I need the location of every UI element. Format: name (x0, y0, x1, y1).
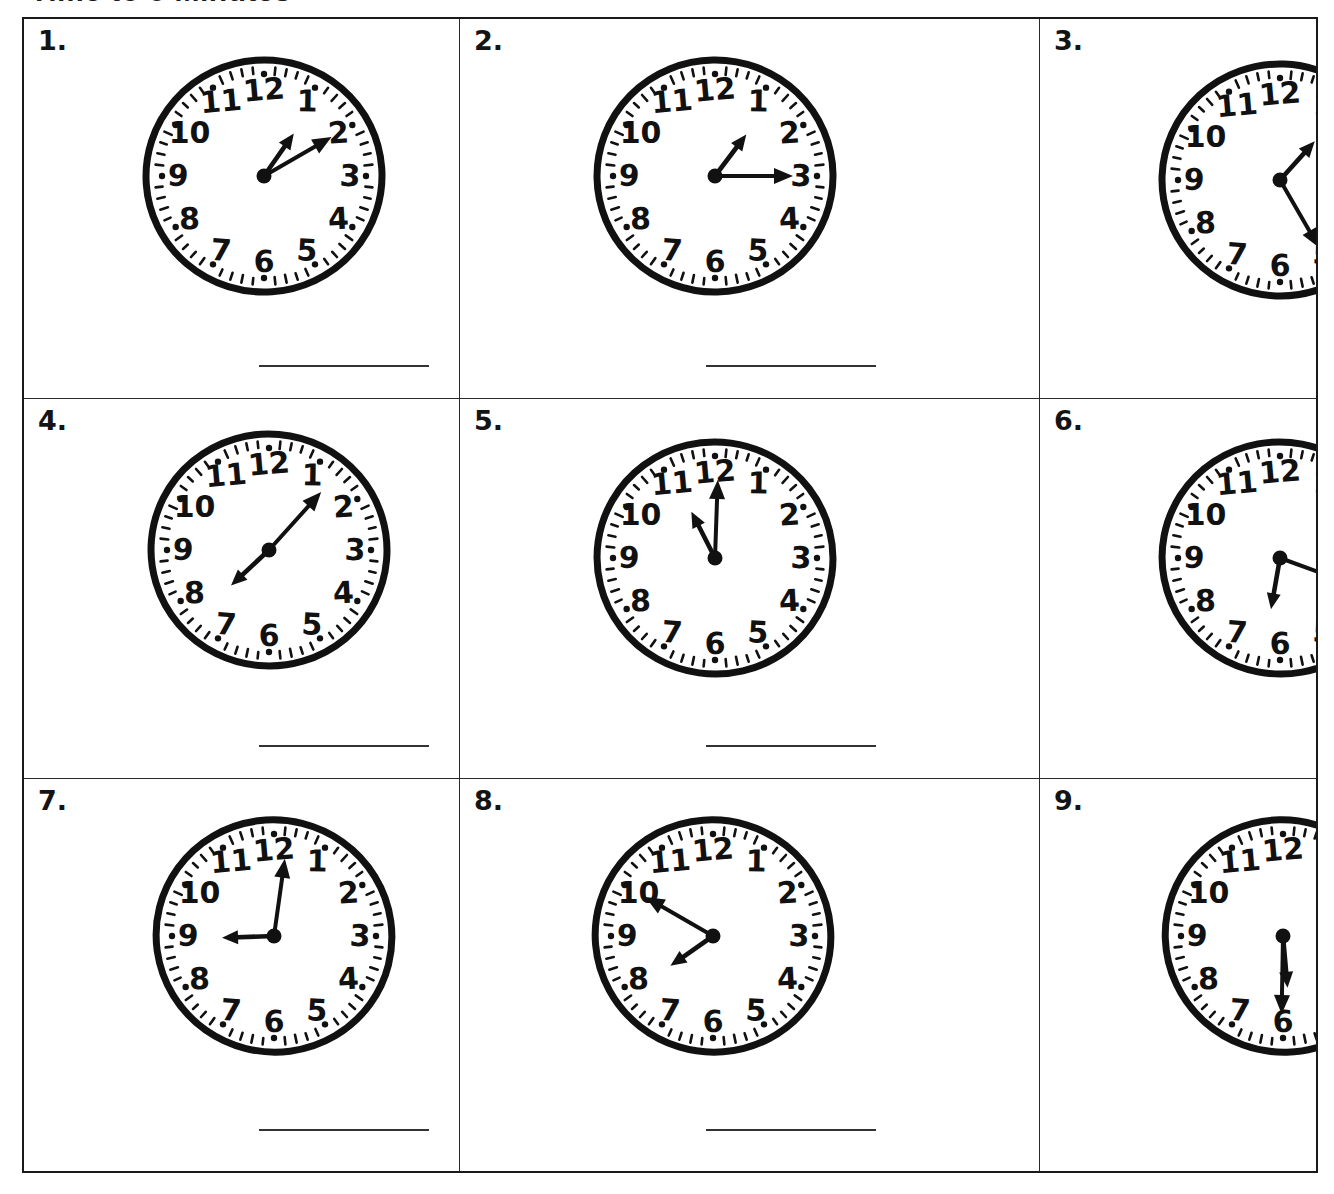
svg-text:11: 11 (204, 456, 249, 495)
svg-text:6: 6 (253, 244, 275, 280)
svg-text:5: 5 (745, 992, 768, 1028)
svg-text:7: 7 (214, 606, 237, 642)
clock-4: 121234567891011 (134, 415, 404, 685)
answer-line-4[interactable] (259, 745, 429, 747)
svg-text:6: 6 (704, 626, 726, 662)
svg-text:9: 9 (1182, 539, 1206, 576)
problem-cell-7: 7.121234567891011 (24, 779, 460, 1171)
svg-text:4: 4 (337, 960, 360, 996)
svg-text:12: 12 (1258, 74, 1303, 113)
svg-text:11: 11 (648, 842, 693, 881)
svg-text:9: 9 (176, 917, 200, 954)
svg-text:3: 3 (790, 158, 812, 194)
clock-6: 121234567891011 (1145, 423, 1316, 693)
svg-text:9: 9 (171, 531, 195, 568)
problem-number-3: 3. (1054, 25, 1083, 56)
svg-text:12: 12 (247, 444, 292, 483)
svg-text:6: 6 (1269, 626, 1291, 662)
svg-text:2: 2 (778, 496, 801, 532)
svg-text:11: 11 (1215, 464, 1260, 503)
svg-text:8: 8 (184, 575, 205, 610)
svg-text:10: 10 (1188, 875, 1230, 910)
svg-text:3: 3 (339, 158, 361, 194)
problem-grid: 1.1212345678910112.1212345678910113.1212… (22, 17, 1318, 1173)
clock-face: 121234567891011 (1145, 45, 1316, 315)
clock-9: 121234567891011 (1148, 801, 1316, 1071)
svg-text:3: 3 (788, 918, 810, 954)
svg-text:10: 10 (1185, 497, 1227, 532)
svg-text:2: 2 (337, 874, 360, 910)
svg-text:10: 10 (169, 115, 211, 150)
svg-text:1: 1 (306, 843, 327, 878)
problem-cell-3: 3.121234567891011 (1040, 19, 1316, 399)
svg-text:5: 5 (1312, 614, 1316, 650)
svg-text:11: 11 (199, 82, 244, 121)
svg-text:1: 1 (296, 83, 317, 118)
svg-text:9: 9 (615, 917, 639, 954)
svg-text:12: 12 (693, 452, 738, 491)
svg-text:12: 12 (252, 830, 297, 869)
clock-face: 121234567891011 (580, 41, 850, 311)
svg-text:6: 6 (263, 1004, 285, 1040)
svg-text:8: 8 (179, 201, 200, 236)
svg-text:7: 7 (658, 992, 681, 1028)
svg-text:10: 10 (179, 875, 221, 910)
svg-text:12: 12 (1261, 830, 1306, 869)
problem-cell-6: 6.121234567891011 (1040, 399, 1316, 779)
svg-text:11: 11 (650, 82, 695, 121)
svg-text:9: 9 (166, 157, 190, 194)
svg-text:1: 1 (747, 83, 768, 118)
svg-text:4: 4 (778, 582, 801, 618)
svg-text:6: 6 (258, 618, 280, 654)
problem-cell-4: 4.121234567891011 (24, 399, 460, 779)
svg-text:5: 5 (747, 614, 770, 650)
svg-text:9: 9 (1185, 917, 1209, 954)
svg-text:7: 7 (660, 614, 683, 650)
answer-line-2[interactable] (706, 365, 876, 367)
problem-number-8: 8. (474, 785, 503, 816)
svg-text:9: 9 (617, 157, 641, 194)
svg-text:11: 11 (1218, 842, 1263, 881)
svg-text:6: 6 (702, 1004, 724, 1040)
svg-text:10: 10 (620, 115, 662, 150)
svg-text:11: 11 (209, 842, 254, 881)
svg-text:8: 8 (1198, 961, 1219, 996)
clock-face: 121234567891011 (139, 801, 409, 1071)
svg-text:5: 5 (306, 992, 329, 1028)
svg-text:1: 1 (745, 843, 766, 878)
svg-text:9: 9 (1182, 161, 1206, 198)
svg-text:2: 2 (332, 488, 355, 524)
clock-7: 121234567891011 (139, 801, 409, 1071)
svg-text:12: 12 (691, 830, 736, 869)
svg-text:2: 2 (778, 114, 801, 150)
problem-cell-8: 8.121234567891011 (460, 779, 1040, 1171)
svg-text:1: 1 (301, 457, 322, 492)
svg-text:3: 3 (344, 532, 366, 568)
svg-text:9: 9 (617, 539, 641, 576)
answer-line-5[interactable] (706, 745, 876, 747)
problem-number-9: 9. (1054, 785, 1083, 816)
svg-text:7: 7 (1225, 614, 1248, 650)
problem-cell-2: 2.121234567891011 (460, 19, 1040, 399)
problem-cell-1: 1.121234567891011 (24, 19, 460, 399)
svg-text:12: 12 (1258, 452, 1303, 491)
clock-1: 121234567891011 (129, 41, 399, 311)
clock-8: 121234567891011 (578, 801, 848, 1071)
svg-text:4: 4 (776, 960, 799, 996)
svg-text:12: 12 (242, 70, 287, 109)
svg-text:8: 8 (630, 201, 651, 236)
svg-text:2: 2 (327, 114, 350, 150)
answer-line-1[interactable] (259, 365, 429, 367)
svg-text:11: 11 (1215, 86, 1260, 125)
clock-2: 121234567891011 (580, 41, 850, 311)
problem-number-4: 4. (38, 405, 67, 436)
clock-face: 121234567891011 (129, 41, 399, 311)
problem-cell-5: 5.121234567891011 (460, 399, 1040, 779)
svg-text:8: 8 (189, 961, 210, 996)
svg-text:2: 2 (776, 874, 799, 910)
answer-line-8[interactable] (706, 1129, 876, 1131)
svg-text:1: 1 (1312, 87, 1316, 122)
problem-number-7: 7. (38, 785, 67, 816)
problem-number-2: 2. (474, 25, 503, 56)
answer-line-7[interactable] (259, 1129, 429, 1131)
